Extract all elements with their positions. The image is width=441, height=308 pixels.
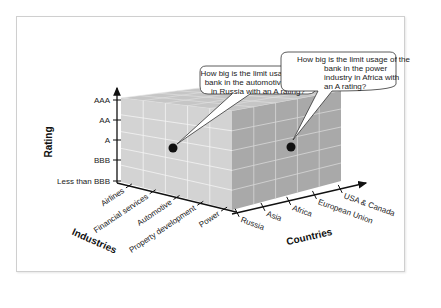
country-tick-label: Russia bbox=[239, 215, 266, 232]
callout-line: an A rating? bbox=[324, 82, 367, 91]
countries-axis-title: Countries bbox=[285, 226, 333, 247]
cube-diagram: AAAAAABBBLess than BBB Rating AirlinesFi… bbox=[0, 0, 441, 308]
callout-line: bank in the power bbox=[324, 64, 387, 73]
callout-line: industry in Africa with bbox=[324, 73, 399, 82]
marker-power-africa[interactable] bbox=[287, 143, 296, 152]
rating-tick-label: BBB bbox=[94, 156, 110, 165]
rating-axis-title: Rating bbox=[43, 126, 54, 157]
rating-tick-label: Less than BBB bbox=[57, 177, 110, 186]
industry-tick-label: Power bbox=[197, 209, 221, 229]
rating-tick-label: A bbox=[105, 136, 111, 145]
marker-automotive-russia[interactable] bbox=[169, 144, 178, 153]
country-tick-label: Africa bbox=[291, 203, 314, 219]
callout-line: How big is the limit usage of the bbox=[297, 55, 410, 64]
rating-tick-label: AAA bbox=[94, 96, 111, 105]
rating-tick-label: AA bbox=[99, 116, 110, 125]
industry-tick-label: Financial services bbox=[92, 192, 150, 235]
country-tick-label: Asia bbox=[265, 209, 283, 223]
industry-tick-label: Airlines bbox=[99, 186, 126, 208]
